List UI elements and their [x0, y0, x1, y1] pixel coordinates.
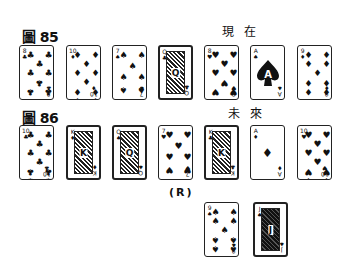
- spade-icon: A: [256, 59, 280, 87]
- figure-86-label: 圖 86: [22, 107, 58, 127]
- present-label: 現在: [222, 22, 266, 39]
- pip-grid: ♥♥♥♥♥♥♥♥: [211, 51, 232, 94]
- court-figure-art: Q: [120, 131, 139, 174]
- pip-grid: ♠♠♠♠♠♠♠♠♠: [211, 208, 232, 251]
- card-index: A♦: [277, 165, 282, 177]
- pip-grid: ♥♥♥♥♥♥♥♥♥♥: [304, 131, 325, 174]
- court-figure-art: K: [74, 131, 93, 174]
- pip-grid: ♦♦♦♦♦♦♦♦♦: [304, 51, 325, 94]
- card-seven-of-hearts: 7♥7♥♥♥♥♥♥♥♥: [158, 125, 193, 180]
- card-jack-of-spades: J♠J♠J: [253, 202, 288, 257]
- card-king-of-diamonds: K♦K♦K: [66, 125, 101, 180]
- reversed-marker: (R): [169, 186, 194, 199]
- card-ace-of-spades: A♠A♠A: [250, 45, 285, 100]
- card-ten-of-clubs: 10♣10♣♣♣♣♣♣♣♣♣♣♣: [19, 125, 54, 180]
- card-nine-of-diamonds: 9♦9♦♦♦♦♦♦♦♦♦♦: [297, 45, 332, 100]
- card-seven-of-spades: 7♠7♠♠♠♠♠♠♠♠: [112, 45, 147, 100]
- figure-85-label: 圖 85: [22, 26, 58, 46]
- pip-grid: ♦♦♦♦♦♦♦♦♦♦: [73, 51, 94, 94]
- card-ace-of-diamonds: A♦A♦♦: [250, 125, 285, 180]
- card-ten-of-hearts: 10♥10♥♥♥♥♥♥♥♥♥♥♥: [297, 125, 332, 180]
- pip-grid: ♣♣♣♣♣♣♣♣: [26, 51, 47, 94]
- pip-grid: ♥♥♥♥♥♥♥: [165, 131, 186, 174]
- card-nine-of-spades: 9♠9♠♠♠♠♠♠♠♠♠♠: [204, 202, 239, 257]
- court-figure-art: Q: [166, 51, 185, 94]
- pip-grid: ♠♠♠♠♠♠♠: [119, 51, 140, 94]
- court-figure-art: K: [212, 131, 231, 174]
- card-queen-of-clubs: Q♣Q♣Q: [158, 45, 193, 100]
- card-queen-of-spades: Q♠Q♠Q: [112, 125, 147, 180]
- svg-text:A: A: [264, 69, 272, 80]
- card-ten-of-diamonds: 10♦10♦♦♦♦♦♦♦♦♦♦♦: [66, 45, 101, 100]
- card-king-of-clubs: K♣K♣K: [204, 125, 239, 180]
- card-index: A♦: [253, 128, 258, 140]
- card-eight-of-hearts: 8♥8♥♥♥♥♥♥♥♥♥: [204, 45, 239, 100]
- card-index: A♠: [277, 85, 282, 97]
- court-figure-art: J: [261, 208, 280, 251]
- diamond-icon: ♦: [251, 146, 284, 160]
- pip-grid: ♣♣♣♣♣♣♣♣♣♣: [26, 131, 47, 174]
- future-label: 未來: [228, 104, 272, 121]
- card-eight-of-clubs: 8♣8♣♣♣♣♣♣♣♣♣: [19, 45, 54, 100]
